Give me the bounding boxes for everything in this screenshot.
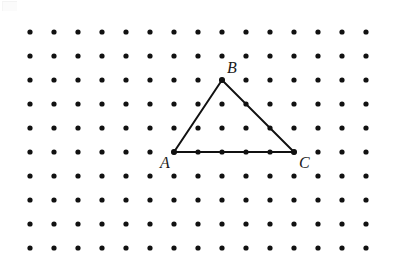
- lattice-dot: [171, 221, 176, 226]
- lattice-dot: [219, 173, 224, 178]
- lattice-dot: [195, 125, 200, 130]
- lattice-dot: [147, 149, 152, 154]
- lattice-dot: [51, 125, 56, 130]
- lattice-dot: [27, 53, 32, 58]
- lattice-dot: [51, 149, 56, 154]
- lattice-dot: [219, 101, 224, 106]
- lattice-dot: [267, 197, 272, 202]
- lattice-dot: [171, 53, 176, 58]
- lattice-dot: [315, 101, 320, 106]
- lattice-dot: [219, 125, 224, 130]
- triangle-outline: [171, 77, 297, 155]
- lattice-dot: [267, 29, 272, 34]
- vertex-label-a: A: [160, 155, 170, 171]
- lattice-dot: [363, 101, 368, 106]
- lattice-dot: [147, 77, 152, 82]
- lattice-dot: [147, 125, 152, 130]
- lattice-dot: [27, 77, 32, 82]
- lattice-dot: [363, 77, 368, 82]
- vertex-label-c: C: [299, 155, 310, 171]
- lattice-dot: [291, 221, 296, 226]
- lattice-dot: [291, 125, 296, 130]
- lattice-dot: [27, 173, 32, 178]
- lattice-dot: [195, 77, 200, 82]
- lattice-dot: [51, 101, 56, 106]
- lattice-dot: [123, 173, 128, 178]
- lattice-dot: [363, 149, 368, 154]
- lattice-dot: [339, 29, 344, 34]
- lattice-dot: [219, 245, 224, 250]
- lattice-dot: [75, 101, 80, 106]
- lattice-dot: [243, 173, 248, 178]
- lattice-dot: [315, 149, 320, 154]
- lattice-dot: [75, 173, 80, 178]
- lattice-dot: [99, 173, 104, 178]
- lattice-dot: [171, 173, 176, 178]
- lattice-dot: [171, 29, 176, 34]
- lattice-dot: [27, 197, 32, 202]
- lattice-dot: [147, 29, 152, 34]
- lattice-dot: [75, 77, 80, 82]
- lattice-dot: [315, 197, 320, 202]
- lattice-dot: [75, 53, 80, 58]
- lattice-dot: [99, 197, 104, 202]
- lattice-dot: [195, 245, 200, 250]
- lattice-dot: [27, 149, 32, 154]
- vertex-label-b: B: [227, 60, 237, 76]
- lattice-dot: [27, 29, 32, 34]
- lattice-dot: [27, 101, 32, 106]
- lattice-dot: [339, 245, 344, 250]
- lattice-dot: [99, 245, 104, 250]
- lattice-dot: [195, 173, 200, 178]
- lattice-dot: [363, 221, 368, 226]
- lattice-dot: [75, 221, 80, 226]
- lattice-dot: [75, 245, 80, 250]
- lattice-dot: [363, 29, 368, 34]
- lattice-dot: [243, 53, 248, 58]
- lattice-dot: [51, 77, 56, 82]
- triangle-vertex-dot-a: [171, 149, 177, 155]
- lattice-dot: [363, 173, 368, 178]
- lattice-dot: [99, 149, 104, 154]
- triangle-vertex-dot-b: [219, 77, 225, 83]
- lattice-dot: [315, 53, 320, 58]
- lattice-dot: [99, 221, 104, 226]
- lattice-dot: [291, 245, 296, 250]
- lattice-dot: [27, 245, 32, 250]
- lattice-dot: [291, 53, 296, 58]
- lattice-dot: [243, 77, 248, 82]
- lattice-dot: [315, 245, 320, 250]
- lattice-dot: [291, 29, 296, 34]
- lattice-dot: [99, 53, 104, 58]
- lattice-dot: [171, 245, 176, 250]
- lattice-dot: [291, 77, 296, 82]
- lattice-dot: [123, 125, 128, 130]
- lattice-dot: [243, 245, 248, 250]
- lattice-dot: [147, 101, 152, 106]
- lattice-dot: [195, 221, 200, 226]
- lattice-dot: [171, 125, 176, 130]
- lattice-dot: [339, 125, 344, 130]
- lattice-dot: [267, 245, 272, 250]
- lattice-dot: [99, 125, 104, 130]
- lattice-dot: [219, 53, 224, 58]
- lattice-dot: [315, 29, 320, 34]
- lattice-dot: [363, 125, 368, 130]
- lattice-dot: [339, 221, 344, 226]
- lattice-dot: [171, 101, 176, 106]
- lattice-dot: [339, 197, 344, 202]
- lattice-dot: [123, 197, 128, 202]
- lattice-dot: [147, 221, 152, 226]
- lattice-dot: [27, 221, 32, 226]
- lattice-dot: [147, 173, 152, 178]
- lattice-dot: [267, 101, 272, 106]
- lattice-dot: [243, 29, 248, 34]
- lattice-dot: [363, 245, 368, 250]
- lattice-dot: [171, 77, 176, 82]
- lattice-dot: [147, 53, 152, 58]
- lattice-dot: [123, 245, 128, 250]
- lattice-dot: [51, 221, 56, 226]
- lattice-dot: [315, 77, 320, 82]
- lattice-dot: [219, 29, 224, 34]
- lattice-dot: [363, 53, 368, 58]
